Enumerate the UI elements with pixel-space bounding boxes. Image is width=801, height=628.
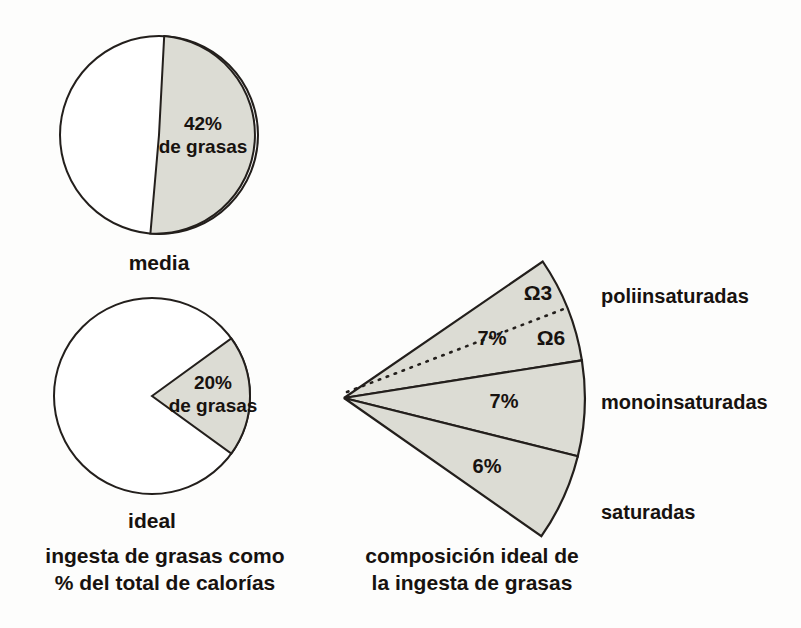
fan-value-poliinsaturadas: 7% (478, 327, 507, 349)
fan-category-saturadas: saturadas (601, 501, 696, 523)
caption-right-line2: la ingesta de grasas (372, 571, 573, 594)
fan-category-poliinsaturadas: poliinsaturadas (601, 285, 749, 307)
caption-right-line1: composición ideal de (365, 544, 579, 567)
media-wedge-fats (150, 36, 255, 234)
media-wedge-value: 42% (184, 113, 222, 134)
fan-label-omega3: Ω3 (524, 281, 553, 304)
pie-chart-media: 42% de grasas media (60, 36, 258, 274)
caption-left-line2: % del total de calorías (55, 571, 276, 594)
fan-value-saturadas: 6% (473, 455, 502, 477)
media-wedge-value-sub: de grasas (159, 136, 248, 157)
ideal-wedge-value: 20% (194, 372, 232, 393)
fats-composition-diagram: 42% de grasas media 20% de grasas ideal (0, 0, 801, 628)
pie-chart-ideal: 20% de grasas ideal (54, 298, 257, 532)
caption-right: composición ideal de la ingesta de grasa… (365, 544, 579, 594)
fan-chart-composition: Ω3 Ω6 7% 7% 6% poliinsaturadas monoinsat… (344, 262, 768, 537)
fan-category-monoinsaturadas: monoinsaturadas (601, 391, 768, 413)
ideal-wedge-value-sub: de grasas (169, 395, 258, 416)
figure-canvas: 42% de grasas media 20% de grasas ideal (0, 0, 801, 628)
caption-left: ingesta de grasas como % del total de ca… (45, 544, 284, 594)
ideal-chart-title: ideal (128, 509, 176, 532)
caption-left-line1: ingesta de grasas como (45, 544, 284, 567)
fan-label-omega6: Ω6 (537, 326, 566, 349)
media-chart-title: media (129, 251, 190, 274)
fan-value-monoinsaturadas: 7% (490, 390, 519, 412)
